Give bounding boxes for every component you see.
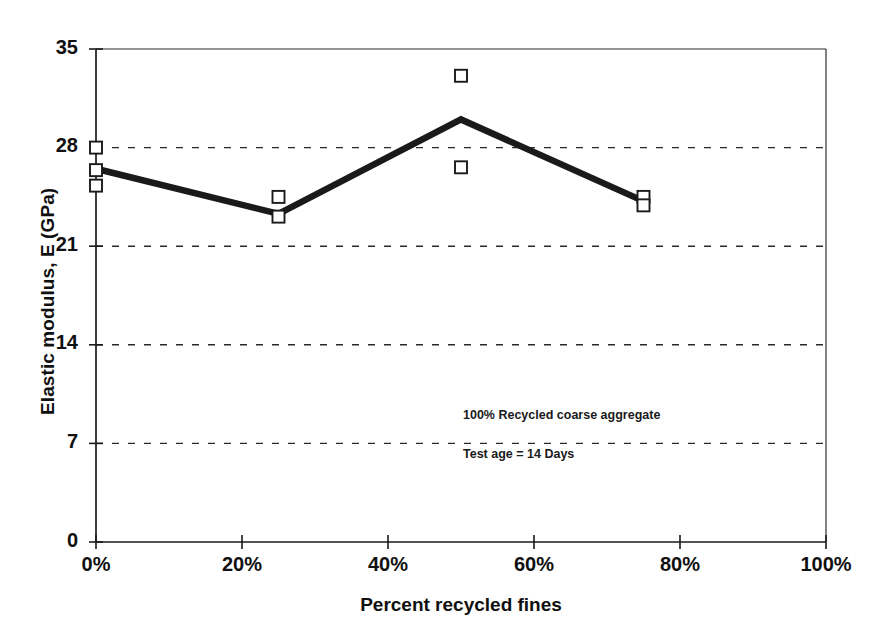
series-line-group (96, 119, 644, 213)
data-marker (455, 161, 467, 173)
data-marker (273, 211, 285, 223)
plot-canvas (0, 0, 873, 634)
series-line-0 (96, 119, 644, 213)
data-marker (455, 70, 467, 82)
gridlines-group (96, 49, 826, 443)
series-marker-group (90, 70, 650, 223)
chart-figure: Elastic modulus, E (GPa) Percent recycle… (0, 0, 873, 634)
data-marker (90, 142, 102, 154)
data-marker (90, 164, 102, 176)
data-marker (638, 199, 650, 211)
data-marker (273, 191, 285, 203)
data-marker (90, 180, 102, 192)
